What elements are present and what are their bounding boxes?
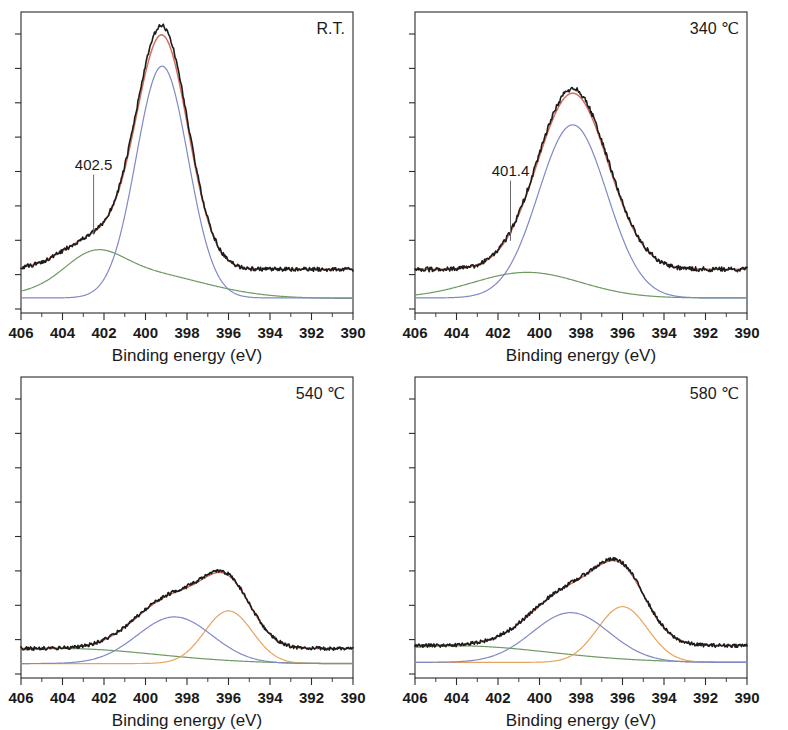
curve-component_a <box>21 617 353 664</box>
x-axis-tick-label: 400 <box>133 324 158 341</box>
panel-580c-plot: 406404402400398396394392390580 ℃Binding … <box>394 365 788 730</box>
x-axis-tick-label: 398 <box>568 324 593 341</box>
x-axis-tick-label: 390 <box>734 324 759 341</box>
x-axis-tick-label: 394 <box>257 689 283 706</box>
x-axis-tick-label: 392 <box>299 689 324 706</box>
x-axis-tick-label: 400 <box>527 324 552 341</box>
xps-figure: 406404402400398396394392390402.5R.T.Bind… <box>0 0 788 730</box>
x-axis-tick-label: 394 <box>651 689 677 706</box>
panel-340c-plot: 406404402400398396394392390401.4340 ℃Bin… <box>394 0 788 365</box>
panel-rt-plot: 406404402400398396394392390402.5R.T.Bind… <box>0 0 394 365</box>
panel-540c: 406404402400398396394392390540 ℃Binding … <box>0 365 394 730</box>
x-axis-tick-label: 390 <box>340 324 365 341</box>
panel-340c: 406404402400398396394392390401.4340 ℃Bin… <box>394 0 788 365</box>
curve-data <box>21 570 353 650</box>
plot-frame <box>415 377 747 678</box>
curve-envelope <box>21 572 353 648</box>
panel-condition-tag: 540 ℃ <box>296 385 345 402</box>
x-axis-title: Binding energy (eV) <box>112 346 262 365</box>
peak-annotation-label: 402.5 <box>75 156 113 173</box>
curve-data <box>415 87 747 271</box>
x-axis-title: Binding energy (eV) <box>506 711 656 730</box>
x-axis-tick-label: 396 <box>610 689 635 706</box>
x-axis-tick-label: 406 <box>8 324 33 341</box>
curve-component_a <box>415 125 747 298</box>
x-axis-tick-label: 404 <box>50 324 76 341</box>
x-axis-title: Binding energy (eV) <box>112 711 262 730</box>
x-axis-tick-label: 398 <box>174 689 199 706</box>
curve-envelope <box>415 93 747 269</box>
x-axis-tick-label: 400 <box>133 689 158 706</box>
x-axis-tick-label: 406 <box>8 689 33 706</box>
x-axis-tick-label: 406 <box>402 689 427 706</box>
x-axis-tick-label: 402 <box>485 689 510 706</box>
x-axis-tick-label: 396 <box>610 324 635 341</box>
panel-580c: 406404402400398396394392390580 ℃Binding … <box>394 365 788 730</box>
x-axis-tick-label: 404 <box>50 689 76 706</box>
x-axis-tick-label: 402 <box>485 324 510 341</box>
panel-condition-tag: R.T. <box>317 20 345 37</box>
curve-data <box>21 24 353 271</box>
panel-condition-tag: 580 ℃ <box>690 385 739 402</box>
x-axis-tick-label: 402 <box>91 689 116 706</box>
x-axis-tick-label: 406 <box>402 324 427 341</box>
x-axis-tick-label: 404 <box>444 324 470 341</box>
curve-envelope <box>415 561 747 646</box>
panel-rt: 406404402400398396394392390402.5R.T.Bind… <box>0 0 394 365</box>
x-axis-title: Binding energy (eV) <box>506 346 656 365</box>
x-axis-tick-label: 396 <box>216 324 241 341</box>
x-axis-tick-label: 404 <box>444 689 470 706</box>
x-axis-tick-label: 402 <box>91 324 116 341</box>
x-axis-tick-label: 394 <box>257 324 283 341</box>
panel-540c-plot: 406404402400398396394392390540 ℃Binding … <box>0 365 394 730</box>
plot-frame <box>21 377 353 678</box>
x-axis-tick-label: 398 <box>568 689 593 706</box>
x-axis-tick-label: 390 <box>340 689 365 706</box>
x-axis-tick-label: 392 <box>299 324 324 341</box>
x-axis-tick-label: 394 <box>651 324 677 341</box>
curve-baseline <box>415 272 747 298</box>
x-axis-tick-label: 392 <box>693 689 718 706</box>
curve-data <box>415 558 747 648</box>
curve-baseline <box>21 649 353 664</box>
x-axis-tick-label: 392 <box>693 324 718 341</box>
peak-annotation-label: 401.4 <box>492 162 530 179</box>
x-axis-tick-label: 390 <box>734 689 759 706</box>
x-axis-tick-label: 400 <box>527 689 552 706</box>
x-axis-tick-label: 396 <box>216 689 241 706</box>
curve-baseline <box>21 250 353 299</box>
curve-component_a <box>415 613 747 663</box>
panel-condition-tag: 340 ℃ <box>690 20 739 37</box>
x-axis-tick-label: 398 <box>174 324 199 341</box>
